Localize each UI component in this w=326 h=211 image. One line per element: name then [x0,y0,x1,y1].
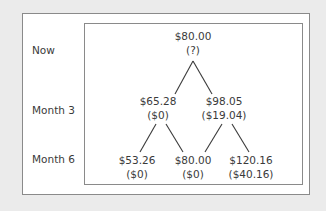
node-price: $80.00 [175,153,212,167]
node-root: $80.00 (?) [175,29,212,57]
node-month6-up-up: $120.16 ($40.16) [229,153,274,181]
node-option-value: ($40.16) [229,167,274,181]
node-option-value: ($19.04) [202,108,247,122]
node-month3-up: $98.05 ($19.04) [202,94,247,122]
node-option-value: (?) [175,43,212,57]
node-option-value: ($0) [140,108,177,122]
node-price: $98.05 [202,94,247,108]
row-label-month-6: Month 6 [32,153,75,166]
node-month6-mid: $80.00 ($0) [175,153,212,181]
node-option-value: ($0) [119,167,156,181]
node-option-value: ($0) [175,167,212,181]
row-label-now: Now [32,44,55,57]
row-label-month-3: Month 3 [32,104,75,117]
node-month6-down-down: $53.26 ($0) [119,153,156,181]
node-price: $80.00 [175,29,212,43]
node-month3-down: $65.28 ($0) [140,94,177,122]
node-price: $65.28 [140,94,177,108]
node-price: $120.16 [229,153,274,167]
node-price: $53.26 [119,153,156,167]
